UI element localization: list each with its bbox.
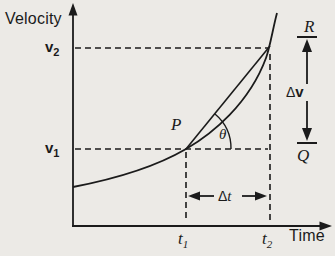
delta-t-right-arrowhead [255, 192, 267, 201]
theta-label: θ [219, 127, 226, 142]
v1-subscript: 1 [53, 147, 59, 159]
v1-tick-label: v1 [45, 140, 59, 156]
delta-v-var: v [295, 83, 303, 100]
v2-tick-label: v2 [45, 39, 59, 55]
velocity-curve [73, 13, 277, 187]
v2-subscript: 2 [53, 46, 59, 58]
t2-subscript: 2 [267, 238, 273, 250]
y-axis-arrowhead [69, 3, 78, 16]
delta-v-delta: Δ [286, 84, 295, 100]
delta-t-left-arrowhead [188, 192, 200, 201]
t1-tick-label: t1 [178, 230, 188, 247]
t2-tick-label: t2 [262, 230, 272, 247]
delta-t-delta: Δ [218, 188, 227, 204]
velocity-time-diagram: Velocity v2 v1 P θ Δt t1 t2 Time R Δv Q [0, 0, 335, 256]
delta-t-label: Δt [218, 188, 232, 204]
point-p-label: P [171, 116, 181, 133]
delta-v-down-arrowhead [302, 128, 312, 141]
point-r-label: R [304, 18, 314, 35]
t1-subscript: 1 [183, 238, 189, 250]
delta-t-var: t [227, 188, 231, 204]
y-axis-label: Velocity [5, 11, 62, 27]
delta-v-label: Δv [286, 84, 304, 100]
point-q-label: Q [297, 147, 309, 164]
x-axis-label: Time [289, 228, 325, 244]
